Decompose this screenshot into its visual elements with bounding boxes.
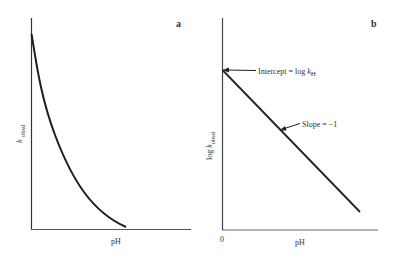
- panel-a-y-label-sub: obsd: [19, 124, 26, 137]
- slope-arrowhead-icon: [280, 126, 287, 131]
- panel-a: a pH k obsd: [15, 18, 191, 246]
- panel-b-x-label: pH: [295, 238, 305, 247]
- panel-a-x-label: pH: [111, 237, 121, 246]
- panel-b-x-tick-zero: 0: [220, 235, 224, 244]
- panel-b-linear-plot: [223, 70, 361, 212]
- panel-b-letter: b: [371, 18, 377, 29]
- figure: a pH k obsd Intercept = log kH Slope = −…: [0, 0, 395, 256]
- panel-b-y-label-text: log kobsd: [205, 131, 216, 160]
- panel-a-letter: a: [176, 18, 181, 29]
- panel-a-y-label: k obsd: [15, 124, 26, 143]
- intercept-arrow-line: [226, 70, 256, 71]
- intercept-label: Intercept = log kH: [258, 67, 316, 78]
- panel-a-y-label-k: k: [15, 139, 24, 143]
- panel-b-y-label: log kobsd: [205, 131, 216, 160]
- panel-a-decay-curve: [32, 34, 127, 227]
- slope-label: Slope = −1: [302, 120, 337, 129]
- panel-b: Intercept = log kH Slope = −1 b 0 pH log…: [205, 18, 378, 247]
